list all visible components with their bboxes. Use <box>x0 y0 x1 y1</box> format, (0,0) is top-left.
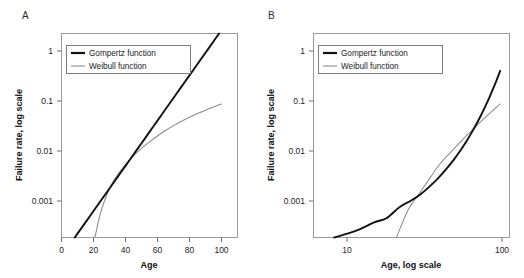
panel-a-xtick-0: 0 <box>59 245 64 255</box>
panel-a-legend[interactable]: Gompertz function Weibull function <box>67 46 191 74</box>
panel-b-curve-weibull <box>397 104 501 237</box>
panel-b-xtick-1: 100 <box>495 245 509 255</box>
panel-a-xtick-2: 40 <box>121 245 131 255</box>
panel-a-plot: 1 0.1 0.01 0.001 0 20 40 60 80 100 <box>0 0 262 278</box>
panel-b-letter: B <box>268 10 275 21</box>
panel-a-ytick-1: 0.1 <box>41 96 53 106</box>
panel-a-xtick-3: 60 <box>153 245 163 255</box>
panel-a-legend-label-weibull: Weibull function <box>89 62 147 71</box>
panel-a-x-ticks <box>62 238 222 243</box>
panel-a-xtick-4: 80 <box>185 245 195 255</box>
panel-a-legend-label-gompertz: Gompertz function <box>89 49 156 58</box>
panel-b-ytick-3: 0.001 <box>284 196 306 206</box>
panel-b: B 1 0.1 0.01 0.001 10 100 Age, log scale <box>262 0 524 278</box>
panel-b-xtick-0: 10 <box>342 245 352 255</box>
panel-b-yaxis-title: Failure rate, log scale <box>266 89 276 181</box>
panel-a-ytick-0: 1 <box>48 46 53 56</box>
panel-b-xaxis-title: Age, log scale <box>381 260 442 270</box>
panel-b-ytick-1: 0.1 <box>293 96 305 106</box>
panel-a-yaxis-title: Failure rate, log scale <box>14 89 24 181</box>
panel-b-plot: 1 0.1 0.01 0.001 10 100 Age, log scale F… <box>262 0 524 278</box>
panel-b-legend[interactable]: Gompertz function Weibull function <box>319 46 443 74</box>
caption-strip <box>0 272 524 278</box>
panel-a-curve-weibull <box>95 104 221 237</box>
panel-b-ytick-2: 0.01 <box>288 146 305 156</box>
panel-b-x-ticks <box>347 238 502 243</box>
panel-a-letter: A <box>22 10 29 21</box>
panel-a: A 1 0.1 0.01 0.001 <box>0 0 262 278</box>
panel-b-ytick-0: 1 <box>300 46 305 56</box>
panel-a-xaxis-title: Age <box>140 260 157 270</box>
panel-a-xtick-1: 20 <box>89 245 99 255</box>
panel-b-y-ticks <box>309 51 314 201</box>
panel-a-xtick-5: 100 <box>214 245 228 255</box>
panel-a-ytick-2: 0.01 <box>36 146 53 156</box>
panel-a-ytick-3: 0.001 <box>32 196 54 206</box>
panel-b-legend-label-weibull: Weibull function <box>341 62 399 71</box>
panel-b-legend-label-gompertz: Gompertz function <box>341 49 408 58</box>
panel-b-curve-gompertz <box>334 71 500 238</box>
panel-a-y-ticks <box>57 51 62 201</box>
figure-container: A 1 0.1 0.01 0.001 <box>0 0 524 278</box>
